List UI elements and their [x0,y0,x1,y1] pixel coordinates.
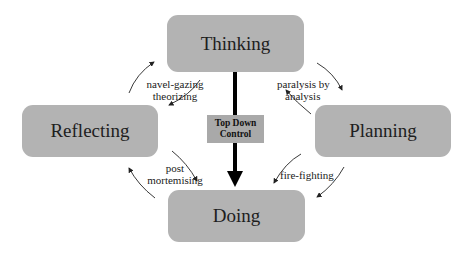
edge-label-navel-gazing: navel-gazing theorizing [140,78,210,102]
edge-label-line: paralysis by [277,78,347,90]
edge-label-line: post [140,162,210,174]
top-down-control-box: Top Down Control [207,115,264,143]
edge-label-line: theorizing [140,90,210,102]
control-line-2: Control [220,129,252,140]
edge-label-line: analysis [277,90,347,102]
edge-label-post-mortemising: post mortemising [140,162,210,186]
control-line-1: Top Down [215,118,257,129]
diagram-canvas: Thinking Reflecting Planning Doing Top D… [0,0,468,255]
edge-label-paralysis-by-analysis: paralysis by analysis [277,78,347,102]
edge-label-line: mortemising [140,174,210,186]
edge-label-fire-fighting: fire-fighting [280,169,350,181]
edge-label-line: navel-gazing [140,78,210,90]
edge-label-line: fire-fighting [280,169,350,181]
